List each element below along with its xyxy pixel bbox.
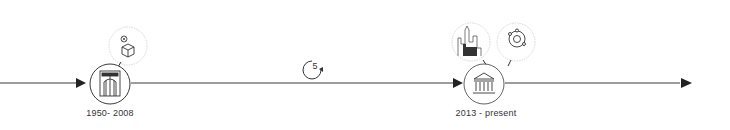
node-label-1950-2008: 1950- 2008 bbox=[86, 108, 134, 118]
node-label-2013-present: 2013 - present bbox=[456, 108, 517, 118]
arrow-end-icon bbox=[681, 78, 692, 88]
cycle-count: 5 bbox=[312, 61, 317, 71]
arrow-head-icon bbox=[453, 78, 463, 88]
arrow-head-icon bbox=[76, 78, 86, 88]
bubble-cube bbox=[109, 27, 147, 67]
timeline-node-1950-2008 bbox=[90, 64, 130, 104]
bubble-orbit bbox=[497, 23, 535, 66]
bubble-factory bbox=[452, 23, 490, 66]
timeline-node-2013-present bbox=[464, 64, 504, 104]
